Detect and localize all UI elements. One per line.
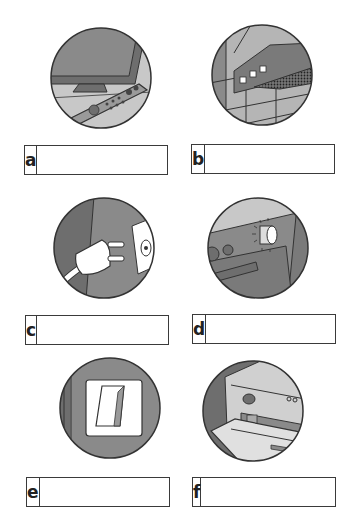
answer-box-d: d (192, 314, 336, 344)
plug-socket-icon (52, 196, 156, 300)
item-letter-d: d (193, 315, 206, 343)
answer-box-a: a (24, 145, 168, 175)
oven-knob-icon (206, 196, 310, 300)
dishwasher-icon (201, 359, 305, 463)
tv-remote-icon (49, 26, 153, 130)
picture-a-tv-remote (49, 26, 153, 130)
picture-b-extractor-hood (210, 23, 314, 127)
answer-box-b: b (191, 144, 335, 174)
answer-box-f: f (192, 477, 336, 507)
item-letter-e: e (27, 478, 40, 506)
item-letter-b: b (192, 145, 205, 173)
item-letter-a: a (25, 146, 37, 174)
answer-box-e: e (26, 477, 170, 507)
picture-d-oven-knob (206, 196, 310, 300)
picture-c-plug-socket (52, 196, 156, 300)
item-letter-c: c (26, 316, 37, 344)
answer-input-f[interactable] (201, 478, 359, 506)
light-switch-icon (58, 356, 162, 460)
item-letter-f: f (193, 478, 201, 506)
answer-box-c: c (25, 315, 169, 345)
answer-input-d[interactable] (206, 315, 359, 343)
answer-input-b[interactable] (205, 145, 359, 173)
picture-f-dishwasher (201, 359, 305, 463)
extractor-hood-icon (210, 23, 314, 127)
picture-e-light-switch (58, 356, 162, 460)
